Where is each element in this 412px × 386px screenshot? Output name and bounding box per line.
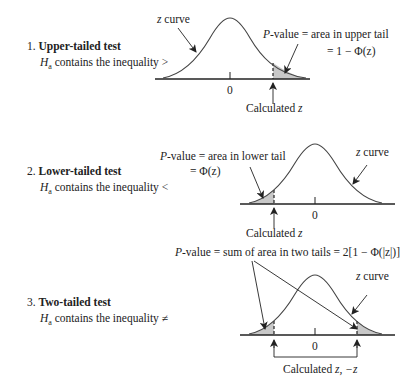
curve-word: curve (360, 146, 388, 158)
calculated-z-label-2: Calculated z (246, 227, 303, 240)
pvalue-text: -value = area in lower tail (167, 150, 286, 162)
ha-text: contains the inequality < (52, 181, 168, 193)
section-3-hypothesis: Ha contains the inequality ≠ (40, 312, 168, 329)
pvalue-formula-2: = Φ(z) (190, 165, 221, 178)
zero-label-2: 0 (312, 209, 318, 222)
pvalue-text: -value = sum of area in two tails = 2[1 … (182, 246, 400, 258)
p-var: P (175, 246, 182, 258)
calc-var: z, −z (335, 363, 357, 375)
calc-var: z (298, 227, 302, 239)
z-curve-label-3: z curve (356, 270, 389, 283)
pvalue-formula-1: = 1 − Φ(z) (327, 45, 376, 58)
bell-curve-1 (163, 18, 306, 78)
z-curve-label-2: z curve (356, 146, 389, 159)
pvalue-arrow-right (254, 261, 357, 329)
ha-text: contains the inequality > (52, 56, 168, 68)
calculated-z-label-3: Calculated z, −z (283, 363, 358, 376)
p-var: P (160, 150, 167, 162)
pvalue-text: -value = area in upper tail (270, 28, 389, 40)
calc-text: Calculated (246, 102, 298, 114)
zero-label-1: 0 (227, 84, 233, 97)
section-3-heading: 3. Two-tailed test (27, 296, 111, 309)
ha-text: contains the inequality ≠ (52, 312, 168, 324)
section-title: Lower-tailed test (39, 165, 122, 177)
z-curve-arrow-2 (353, 165, 367, 184)
section-title: Two-tailed test (39, 296, 111, 308)
section-1-heading: 1. Upper-tailed test (27, 40, 121, 53)
pvalue-arrow-2 (250, 167, 263, 198)
calc-text: Calculated (246, 227, 298, 239)
section-1-hypothesis: Ha contains the inequality > (40, 56, 168, 73)
bell-curve-3 (249, 275, 382, 334)
zero-label-3: 0 (312, 340, 318, 353)
z-curve-label-1: z curve (157, 13, 190, 26)
p-var: P (263, 28, 270, 40)
section-2-hypothesis: Ha contains the inequality < (40, 181, 168, 198)
section-number: 3. (27, 296, 36, 308)
z-curve-arrow-3 (352, 295, 367, 314)
curve-word: curve (161, 13, 189, 25)
calc-text: Calculated (283, 363, 335, 375)
pvalue-arrow-left (252, 261, 265, 329)
z-curve-arrow-1 (178, 28, 196, 52)
section-number: 2. (27, 165, 36, 177)
pvalue-arrow-1 (285, 44, 298, 73)
pvalue-label-1: P-value = area in upper tail (263, 28, 389, 41)
calc-var: z (298, 102, 302, 114)
upper-tail-shaded-area (273, 63, 306, 79)
section-2-heading: 2. Lower-tailed test (27, 165, 121, 178)
section-number: 1. (27, 40, 36, 52)
curve-word: curve (360, 270, 388, 282)
section-title: Upper-tailed test (39, 40, 121, 52)
pvalue-label-3: P-value = sum of area in two tails = 2[1… (175, 246, 400, 259)
pvalue-label-2: P-value = area in lower tail (160, 150, 286, 163)
calculated-z-label-1: Calculated z (246, 102, 303, 115)
